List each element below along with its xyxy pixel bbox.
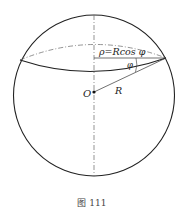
center-label-o: O (83, 88, 91, 99)
sphere-diagram: ρ=Rcos φ φ R O 图 111 (0, 0, 181, 213)
center-point (92, 90, 95, 93)
figure-caption: 图 111 (77, 198, 106, 208)
r-label: R (114, 85, 122, 96)
phi-label: φ (127, 60, 133, 70)
latitude-circle-front-arc (20, 58, 166, 72)
rho-formula-label: ρ=Rcos φ (98, 46, 146, 57)
phi-angle-arc (136, 58, 137, 72)
